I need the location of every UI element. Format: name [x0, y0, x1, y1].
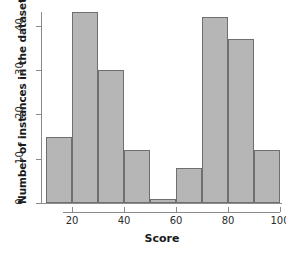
x-axis-tick	[176, 207, 177, 212]
plot-area	[46, 8, 280, 203]
y-axis-tick-label: 30	[14, 54, 25, 84]
histogram-bar	[254, 150, 280, 203]
x-axis-tick-label: 20	[57, 215, 87, 226]
x-axis-tick-label: 80	[213, 215, 243, 226]
y-axis-tick-label: 10	[14, 142, 25, 172]
histogram-bar	[124, 150, 150, 203]
histogram-bar	[202, 17, 228, 203]
x-axis-tick-label: 100	[265, 215, 286, 226]
histogram-chart: Number of instances in the dataset 01020…	[0, 0, 286, 253]
x-axis-tick-label: 40	[109, 215, 139, 226]
x-axis-tick	[124, 207, 125, 212]
y-axis-tick-label: 0	[14, 187, 25, 217]
x-axis-baseline	[41, 203, 282, 204]
histogram-bar	[46, 137, 72, 203]
histogram-bar	[72, 12, 98, 203]
x-axis-tick	[228, 207, 229, 212]
y-axis-tick	[36, 159, 41, 160]
histogram-bar	[150, 199, 176, 203]
x-axis-title: Score	[42, 232, 282, 245]
y-axis-tick	[36, 114, 41, 115]
y-axis-tick	[36, 70, 41, 71]
y-axis-line	[41, 12, 42, 203]
x-axis-tick	[72, 207, 73, 212]
histogram-bar	[176, 168, 202, 203]
x-axis-line	[63, 212, 280, 213]
x-axis-tick-label: 60	[161, 215, 191, 226]
histogram-bar	[228, 39, 254, 203]
y-axis-tick-label: 40	[14, 9, 25, 39]
histogram-bar	[98, 70, 124, 203]
y-axis-tick-label: 20	[14, 98, 25, 128]
y-axis-tick	[36, 26, 41, 27]
x-axis-tick	[280, 207, 281, 212]
